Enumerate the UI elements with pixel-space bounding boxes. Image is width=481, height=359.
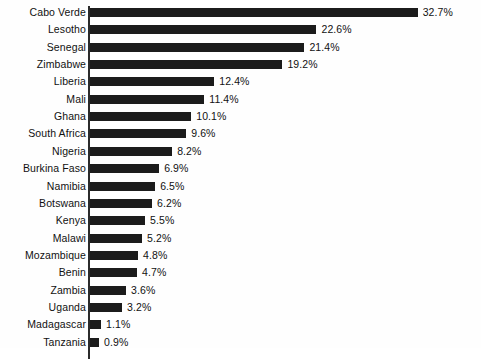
bar-value-label: 8.2%	[177, 143, 201, 160]
table-row: Zambia3.6%	[0, 282, 481, 299]
bar	[90, 286, 126, 295]
bar	[90, 199, 152, 208]
bar-value-label: 6.9%	[164, 160, 188, 177]
bar-category-label: Tanzania	[0, 334, 86, 351]
table-row: Zimbabwe19.2%	[0, 56, 481, 73]
bar-category-label: South Africa	[0, 125, 86, 142]
table-row: Kenya5.5%	[0, 212, 481, 229]
table-row: Benin4.7%	[0, 264, 481, 281]
bar-value-label: 21.4%	[309, 39, 339, 56]
bar-value-label: 4.7%	[142, 264, 166, 281]
bar	[90, 303, 122, 312]
bar-value-label: 9.6%	[191, 125, 215, 142]
bar-value-label: 5.5%	[150, 212, 174, 229]
table-row: Nigeria8.2%	[0, 143, 481, 160]
bar	[90, 43, 304, 52]
bar	[90, 251, 138, 260]
bar-value-label: 22.6%	[321, 21, 351, 38]
bar-value-label: 19.2%	[287, 56, 317, 73]
bar-value-label: 10.1%	[196, 108, 226, 125]
bar-category-label: Mali	[0, 91, 86, 108]
bar-category-label: Cabo Verde	[0, 4, 86, 21]
bar-value-label: 3.2%	[127, 299, 151, 316]
bar	[90, 182, 155, 191]
bar-category-label: Burkina Faso	[0, 160, 86, 177]
table-row: Ghana10.1%	[0, 108, 481, 125]
bar	[90, 77, 214, 86]
bar	[90, 112, 191, 121]
bar-category-label: Zimbabwe	[0, 56, 86, 73]
bar-value-label: 5.2%	[147, 230, 171, 247]
table-row: Lesotho22.6%	[0, 21, 481, 38]
bar	[90, 338, 99, 347]
bar	[90, 8, 418, 17]
bar-category-label: Senegal	[0, 39, 86, 56]
bar-category-label: Nigeria	[0, 143, 86, 160]
bar	[90, 60, 282, 69]
bar-category-label: Zambia	[0, 282, 86, 299]
bar-value-label: 32.7%	[423, 4, 453, 21]
table-row: Mali11.4%	[0, 91, 481, 108]
table-row: Malawi5.2%	[0, 230, 481, 247]
bar-category-label: Malawi	[0, 230, 86, 247]
bar-value-label: 1.1%	[106, 316, 130, 333]
table-row: Namibia6.5%	[0, 178, 481, 195]
bar	[90, 147, 172, 156]
table-row: Uganda3.2%	[0, 299, 481, 316]
bar-value-label: 11.4%	[209, 91, 239, 108]
table-row: Madagascar1.1%	[0, 316, 481, 333]
bar-category-label: Liberia	[0, 73, 86, 90]
table-row: Mozambique4.8%	[0, 247, 481, 264]
table-row: Botswana6.2%	[0, 195, 481, 212]
bar-value-label: 4.8%	[143, 247, 167, 264]
bar-category-label: Madagascar	[0, 316, 86, 333]
bar-value-label: 6.5%	[160, 178, 184, 195]
bar	[90, 25, 316, 34]
table-row: Cabo Verde32.7%	[0, 4, 481, 21]
table-row: Senegal21.4%	[0, 39, 481, 56]
bar-value-label: 12.4%	[219, 73, 249, 90]
table-row: Tanzania0.9%	[0, 334, 481, 351]
bar-category-label: Ghana	[0, 108, 86, 125]
bar-category-label: Mozambique	[0, 247, 86, 264]
bar	[90, 129, 186, 138]
table-row: Burkina Faso6.9%	[0, 160, 481, 177]
bar-category-label: Namibia	[0, 178, 86, 195]
bar-value-label: 6.2%	[157, 195, 181, 212]
bar-category-label: Botswana	[0, 195, 86, 212]
table-row: South Africa9.6%	[0, 125, 481, 142]
bar	[90, 234, 142, 243]
bar-value-label: 0.9%	[104, 334, 128, 351]
bar	[90, 164, 159, 173]
bar-category-label: Lesotho	[0, 21, 86, 38]
bar-category-label: Kenya	[0, 212, 86, 229]
bar-category-label: Uganda	[0, 299, 86, 316]
bar	[90, 216, 145, 225]
bar-value-label: 3.6%	[131, 282, 155, 299]
bar	[90, 320, 101, 329]
bar	[90, 95, 204, 104]
table-row: Liberia12.4%	[0, 73, 481, 90]
bar-category-label: Benin	[0, 264, 86, 281]
bar	[90, 268, 137, 277]
